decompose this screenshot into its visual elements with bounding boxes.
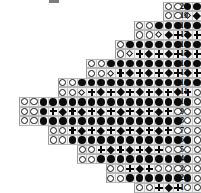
chart-cell-filled-diamond bbox=[107, 146, 117, 154]
chart-cell-filled-circle bbox=[97, 98, 107, 106]
row-number-label: 12 bbox=[178, 78, 201, 88]
chart-cell-filled-circle bbox=[135, 174, 145, 182]
chart-cell-open-diamond bbox=[107, 69, 117, 77]
chart-cell-open-circle bbox=[164, 3, 174, 11]
chart-cell-filled-circle bbox=[107, 79, 117, 87]
chart-cell-plus-cross bbox=[107, 108, 117, 116]
chart-cell-filled-circle bbox=[78, 98, 88, 106]
chart-cell-open-circle bbox=[49, 136, 59, 144]
chart-cell-filled-circle bbox=[155, 174, 165, 182]
chart-cell-plus-cross bbox=[126, 127, 136, 135]
chart-cell-filled-circle bbox=[68, 136, 78, 144]
chart-cell-open-circle bbox=[78, 146, 88, 154]
chart-cell-filled-circle bbox=[49, 117, 59, 125]
chart-cell-plus-cross bbox=[68, 127, 78, 135]
chart-cell-open-circle bbox=[164, 165, 174, 173]
chart-cell-plus-cross bbox=[145, 108, 155, 116]
chart-cell-open-diamond bbox=[126, 50, 136, 58]
chart-cell-filled-circle bbox=[155, 79, 165, 87]
chart-cell-filled-circle bbox=[164, 136, 174, 144]
chart-cell-filled-circle bbox=[145, 98, 155, 106]
chart-cell-open-circle bbox=[97, 69, 107, 77]
chart-cell-filled-circle bbox=[68, 98, 78, 106]
chart-cell-open-circle bbox=[145, 184, 155, 192]
chart-cell-plus-cross bbox=[126, 165, 136, 173]
chart-cell-open-diamond bbox=[155, 31, 165, 39]
chart-cell-filled-circle bbox=[155, 155, 165, 163]
chart-cell-filled-circle bbox=[164, 60, 174, 68]
chart-cell-open-circle bbox=[116, 41, 126, 49]
chart-cell-filled-circle bbox=[78, 136, 88, 144]
row-number-label: 10 bbox=[178, 97, 201, 107]
chart-cell-open-circle bbox=[30, 117, 40, 125]
chart-cell-filled-circle bbox=[39, 117, 49, 125]
chart-cell-filled-circle bbox=[107, 155, 117, 163]
chart-row bbox=[19, 116, 201, 126]
chart-cell-plus-cross bbox=[164, 127, 174, 135]
chart-cell-filled-circle bbox=[126, 60, 136, 68]
chart-cell-plus-cross bbox=[155, 184, 165, 192]
chart-cell-plus-cross bbox=[107, 127, 117, 135]
chart-cell-plus-cross bbox=[116, 146, 126, 154]
chart-cell-plus-cross bbox=[135, 146, 145, 154]
chart-cell-filled-circle bbox=[116, 98, 126, 106]
chart-cell-open-circle bbox=[68, 79, 78, 87]
chart-row bbox=[19, 107, 201, 117]
chart-cell-open-circle bbox=[59, 136, 69, 144]
chart-cell-plus-cross bbox=[145, 127, 155, 135]
chart-cell-plus-cross bbox=[145, 165, 155, 173]
row-number-label: 9 bbox=[178, 107, 201, 117]
chart-cell-plus-cross bbox=[49, 108, 59, 116]
chart-cell-filled-circle bbox=[135, 136, 145, 144]
chart-cell-open-circle bbox=[49, 127, 59, 135]
chart-cell-filled-circle bbox=[135, 60, 145, 68]
row-number-label: 17 bbox=[178, 30, 201, 40]
chart-cell-filled-diamond bbox=[97, 108, 107, 116]
row-number-label: 5 bbox=[178, 145, 201, 155]
row-number-axis: 2019181716151413121110987654321 bbox=[178, 0, 201, 193]
chart-cell-filled-circle bbox=[49, 98, 59, 106]
row-number-label: 15 bbox=[178, 49, 201, 59]
chart-cell-filled-circle bbox=[97, 117, 107, 125]
chart-cell-filled-diamond bbox=[164, 69, 174, 77]
chart-cell-open-circle bbox=[97, 60, 107, 68]
chart-cell-filled-circle bbox=[145, 136, 155, 144]
chart-cell-filled-diamond bbox=[116, 88, 126, 96]
chart-cell-filled-circle bbox=[116, 60, 126, 68]
chart-grid bbox=[0, 0, 176, 193]
chart-cell-plus-cross bbox=[87, 88, 97, 96]
chart-cell-plus-cross bbox=[155, 50, 165, 58]
chart-cell-filled-diamond bbox=[97, 127, 107, 135]
chart-cell-filled-circle bbox=[126, 117, 136, 125]
chart-cell-filled-circle bbox=[116, 117, 126, 125]
chart-cell-filled-diamond bbox=[116, 108, 126, 116]
chart-cell-filled-circle bbox=[97, 136, 107, 144]
chart-cell-filled-circle bbox=[155, 60, 165, 68]
chart-cell-filled-circle bbox=[145, 117, 155, 125]
chart-cell-filled-diamond bbox=[135, 127, 145, 135]
chart-cell-open-circle bbox=[87, 60, 97, 68]
chart-cell-filled-circle bbox=[164, 174, 174, 182]
chart-cell-filled-circle bbox=[145, 155, 155, 163]
chart-cell-open-circle bbox=[135, 22, 145, 30]
chart-cell-filled-circle bbox=[126, 41, 136, 49]
chart-cell-filled-diamond bbox=[145, 146, 155, 154]
chart-cell-plus-cross bbox=[97, 146, 107, 154]
chart-cell-open-circle bbox=[20, 117, 30, 125]
chart-cell-open-circle bbox=[87, 69, 97, 77]
chart-row bbox=[19, 97, 201, 107]
chart-cell-open-circle bbox=[68, 88, 78, 96]
row-number-label: 20 bbox=[178, 2, 201, 12]
chart-cell-filled-circle bbox=[87, 98, 97, 106]
chart-cell-filled-circle bbox=[164, 155, 174, 163]
row-number-label: 18 bbox=[178, 21, 201, 31]
chart-cell-filled-circle bbox=[145, 41, 155, 49]
chart-cell-filled-circle bbox=[97, 155, 107, 163]
chart-cell-filled-circle bbox=[164, 117, 174, 125]
chart-cell-open-circle bbox=[164, 12, 174, 20]
chart-cell-filled-circle bbox=[135, 79, 145, 87]
chart-cell-filled-circle bbox=[164, 41, 174, 49]
chart-cell-filled-circle bbox=[135, 98, 145, 106]
chart-cell-filled-circle bbox=[59, 98, 69, 106]
row-number-label: 8 bbox=[178, 116, 201, 126]
